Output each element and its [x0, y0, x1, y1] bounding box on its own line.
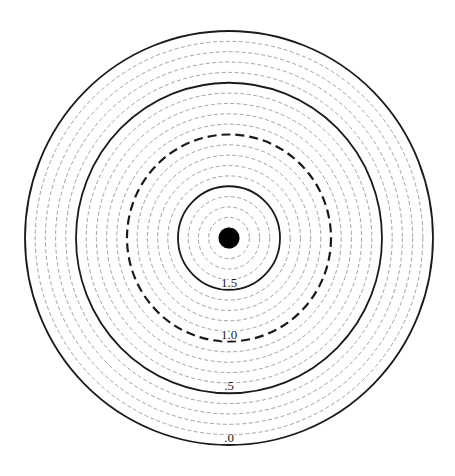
ring-label: .0	[224, 430, 234, 445]
ring-label: .5	[224, 378, 234, 393]
ring-label: 1.5	[221, 275, 237, 290]
ring-label: 1.0	[221, 327, 237, 342]
center-dot	[219, 228, 240, 249]
concentric-rings-diagram: 1.51.0.5.0	[0, 0, 455, 476]
labels-group: 1.51.0.5.0	[221, 275, 237, 445]
